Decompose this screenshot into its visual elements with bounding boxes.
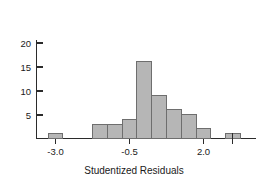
histogram-bar <box>167 110 182 139</box>
x-tick-label-neg05: -0.5 <box>121 146 137 157</box>
y-tick-label-20: 20 <box>20 38 31 49</box>
y-tick-label-5: 5 <box>26 110 31 121</box>
x-tick-label-2: 2.0 <box>197 146 210 157</box>
histogram-bar <box>107 124 122 138</box>
histogram-bar <box>93 124 108 138</box>
histogram-bar <box>137 62 152 139</box>
histogram-plot-area: 5 10 15 20 -3.0 -0.5 2.0 Studentized Res… <box>0 0 263 184</box>
histogram-bar <box>48 134 63 139</box>
histogram-bar <box>152 95 167 138</box>
histogram-bar <box>122 119 137 138</box>
histogram-bar <box>181 115 196 139</box>
x-axis-title: Studentized Residuals <box>84 165 184 176</box>
histogram-bar <box>196 129 211 139</box>
y-tick-label-10: 10 <box>20 86 31 97</box>
y-tick-label-15: 15 <box>20 62 31 73</box>
histogram-figure: 5 10 15 20 -3.0 -0.5 2.0 Studentized Res… <box>0 0 263 184</box>
x-tick-label-neg3: -3.0 <box>47 146 63 157</box>
histogram-bar <box>226 134 241 139</box>
histogram-bars <box>48 62 240 139</box>
y-axis-ticks <box>37 43 43 115</box>
